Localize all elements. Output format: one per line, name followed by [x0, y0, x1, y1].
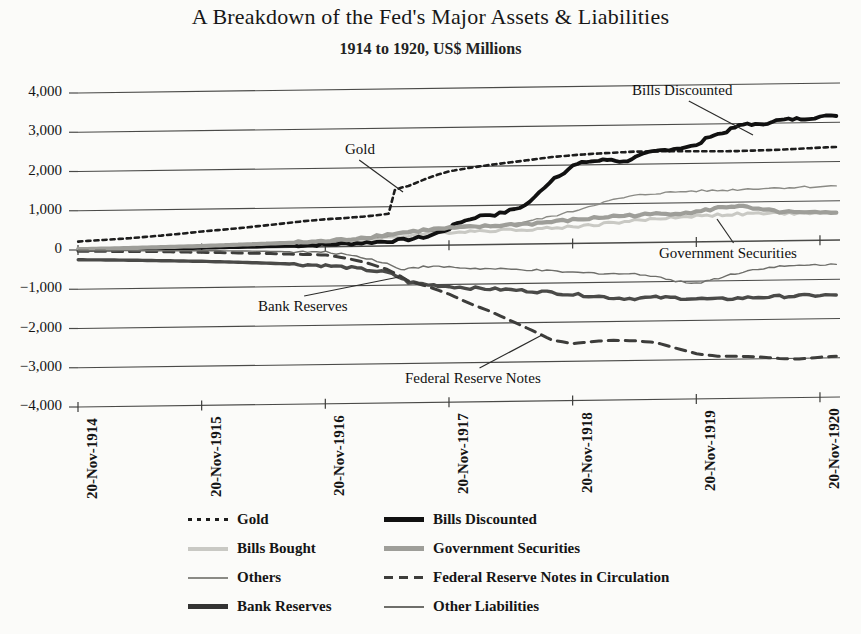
x-axis-tick-label: 20-Nov-1915: [208, 417, 225, 498]
legend-item[interactable]: Gold: [188, 512, 269, 527]
gridline: [78, 397, 840, 407]
y-axis-tick-label: −3,000: [4, 358, 62, 375]
legend-label: Bills Bought: [237, 541, 316, 556]
legend-item[interactable]: Bills Discounted: [384, 512, 537, 527]
legend-item[interactable]: Others: [188, 570, 281, 585]
series-line: [78, 260, 836, 300]
legend-swatch-icon: [384, 543, 424, 555]
legend-item[interactable]: Government Securities: [384, 541, 580, 556]
legend-label: Federal Reserve Notes in Circulation: [433, 570, 669, 585]
gridline: [78, 358, 840, 368]
y-axis-tick-label: −2,000: [4, 319, 62, 336]
y-axis-tick-label: −1,000: [4, 279, 62, 296]
y-axis-tick-label: −4,000: [4, 397, 62, 414]
legend-label: Bills Discounted: [433, 512, 537, 527]
annotation-leader: [480, 335, 542, 368]
chart-figure: A Breakdown of the Fed's Major Assets & …: [0, 0, 861, 634]
legend-swatch-icon: [188, 543, 228, 555]
x-axis-tick-label: 20-Nov-1917: [455, 413, 472, 494]
y-axis-tick-label: 2,000: [4, 162, 62, 179]
annotation-label: Bills Discounted: [632, 82, 732, 99]
gridline: [78, 319, 840, 329]
legend-item[interactable]: Bank Reserves: [188, 599, 332, 614]
legend-swatch-icon: [188, 572, 228, 584]
x-axis-tick-label: 20-Nov-1920: [826, 408, 843, 489]
legend-label: Other Liabilities: [433, 599, 539, 614]
legend-label: Gold: [237, 512, 269, 527]
legend-label: Bank Reserves: [237, 599, 332, 614]
legend-item[interactable]: Federal Reserve Notes in Circulation: [384, 570, 669, 585]
legend-item[interactable]: Other Liabilities: [384, 599, 539, 614]
series-layer: [78, 115, 836, 359]
y-axis-tick-label: 3,000: [4, 122, 62, 139]
chart-legend: GoldBills BoughtOthersBank ReservesBills…: [188, 512, 708, 630]
annotation-leader: [359, 160, 403, 192]
x-axis-tick-label: 20-Nov-1918: [579, 412, 596, 493]
x-axis-tick-label: 20-Nov-1919: [702, 410, 719, 491]
series-line: [78, 115, 836, 250]
annotation-label: Federal Reserve Notes: [405, 370, 541, 387]
legend-label: Government Securities: [433, 541, 580, 556]
annotation-label: Bank Reserves: [258, 298, 348, 315]
legend-label: Others: [237, 570, 281, 585]
x-axis-tick-label: 20-Nov-1916: [331, 415, 348, 496]
y-axis-tick-label: 0: [4, 240, 62, 257]
annotation-label: Government Securities: [659, 245, 797, 262]
gridline: [78, 162, 840, 172]
legend-swatch-icon: [384, 601, 424, 613]
annotation-leader: [689, 101, 753, 135]
y-axis-tick-label: 4,000: [4, 83, 62, 100]
annotation-leader: [717, 219, 734, 243]
legend-swatch-icon: [188, 514, 228, 526]
legend-swatch-icon: [188, 601, 228, 613]
legend-swatch-icon: [384, 514, 424, 526]
series-line: [78, 186, 836, 250]
legend-item[interactable]: Bills Bought: [188, 541, 316, 556]
y-axis-tick-label: 1,000: [4, 201, 62, 218]
legend-swatch-icon: [384, 572, 424, 584]
x-axis-tick-label: 20-Nov-1914: [84, 418, 101, 499]
annotation-label: Gold: [345, 141, 375, 158]
